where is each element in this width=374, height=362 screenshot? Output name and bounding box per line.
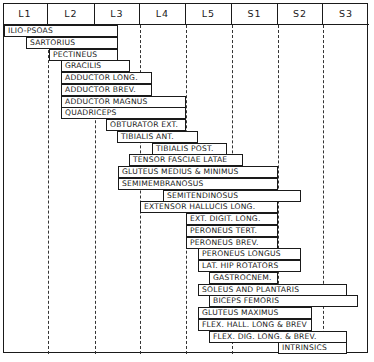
muscle-bar: ADDUCTOR LONG.	[61, 72, 152, 84]
muscle-bar: QUADRICEPS	[61, 107, 186, 119]
segment-header-l1: L1	[3, 3, 48, 25]
segment-header-l2: L2	[48, 3, 95, 25]
muscle-bar: GRACILIS	[61, 60, 130, 72]
muscle-bar: SEMIMEMBRANOSUS	[118, 178, 278, 190]
segment-header-l4: L4	[140, 3, 186, 25]
muscle-bar: LAT. HIP ROTATORS	[198, 260, 301, 272]
segment-header-s3: S3	[323, 3, 369, 25]
segment-divider	[48, 25, 49, 354]
muscle-bar: OBTURATOR EXT.	[106, 119, 186, 131]
muscle-bar: EXT. DIGIT. LONG.	[186, 213, 278, 225]
muscle-bar: ILIO-PSOAS	[4, 25, 118, 37]
muscle-bar: ADDUCTOR BREV.	[61, 84, 152, 96]
muscle-innervation-chart: L1L2L3L4L5S1S2S3 ILIO-PSOASSARTORIUSPECT…	[0, 0, 374, 362]
muscle-bar: TENSOR FASCIAE LATAE	[129, 154, 243, 166]
muscle-bar: GLUTEUS MEDIUS & MINIMUS	[118, 166, 278, 178]
muscle-bar: FLEX. HALL. LONG & BREV	[198, 319, 312, 331]
segment-header-l5: L5	[186, 3, 232, 25]
segment-header-s2: S2	[278, 3, 323, 25]
muscle-bar: TIBIALIS ANT.	[117, 131, 198, 143]
segment-header-l3: L3	[95, 3, 140, 25]
muscle-bar: EXTENSOR HALLUCIS LONG.	[140, 201, 278, 213]
muscle-bar: SARTORIUS	[26, 37, 118, 49]
muscle-bar: INTRINSICS	[278, 342, 347, 354]
segment-header-s1: S1	[232, 3, 278, 25]
muscle-bar: BICEPS FEMORIS	[209, 295, 358, 307]
muscle-bar: PERONEUS TERT.	[186, 225, 278, 237]
muscle-bar: PERONEUS LONGUS	[198, 248, 301, 260]
muscle-bar: GASTROCNEM.	[209, 272, 278, 284]
muscle-bar: GLUTEUS MAXIMUS	[198, 307, 312, 319]
